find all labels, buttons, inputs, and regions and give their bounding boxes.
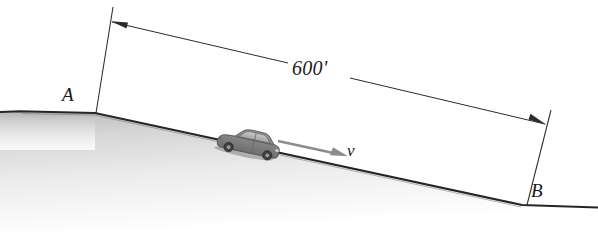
dimension-line-left-segment [112,22,288,63]
dimension-arrowhead-left [111,21,128,28]
dimension-arrowhead-right [529,114,547,125]
label-point-a: A [62,85,74,104]
ground-crest-fill [0,112,95,151]
arrow-right-icon-shaft [278,141,338,154]
label-distance-dimension: 600' [292,58,327,78]
dimension-line-right-segment [350,78,545,124]
terrain-group [0,111,598,232]
label-point-b: B [531,181,543,200]
label-velocity: v [347,142,355,159]
diagram-canvas [0,0,598,232]
extension-line-left [96,7,113,113]
arrow-right-icon-head [330,147,348,156]
physics-diagram-figure: A B 600' v [0,0,598,232]
